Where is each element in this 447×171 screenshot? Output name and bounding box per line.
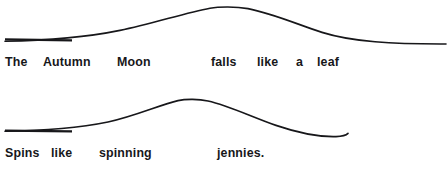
word-a: a	[296, 55, 303, 69]
intonation-figure: The Autumn Moon falls like a leaf Spins …	[0, 0, 447, 171]
word-spinning: spinning	[99, 146, 152, 160]
baseline-segment-2	[5, 131, 72, 132]
word-like-1: like	[257, 55, 278, 69]
baseline-segment-1	[5, 39, 72, 40]
word-like-2: like	[51, 146, 72, 160]
word-jennies: jennies.	[217, 146, 264, 160]
word-the: The	[5, 55, 27, 69]
word-spins: Spins	[5, 146, 40, 160]
word-falls: falls	[211, 55, 237, 69]
contour-curve-2	[5, 99, 348, 136]
contour-curve-1	[5, 7, 446, 44]
word-autumn: Autumn	[43, 55, 91, 69]
word-moon: Moon	[117, 55, 151, 69]
word-leaf: leaf	[317, 55, 339, 69]
